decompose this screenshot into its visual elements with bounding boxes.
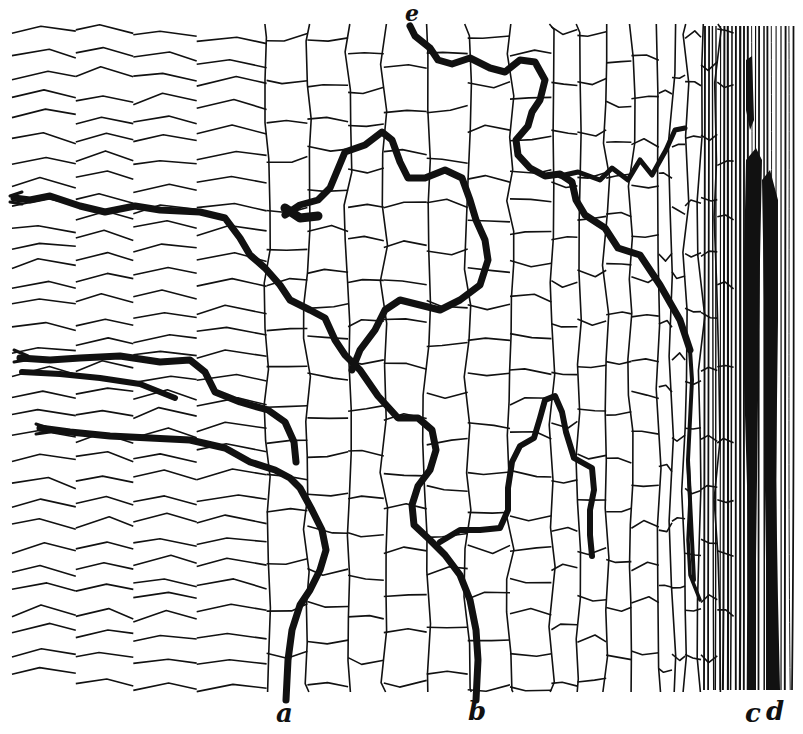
cell-wall [549,24,555,692]
cell-wall [10,24,14,692]
cell-wall [576,24,581,692]
cell-wall [197,177,267,184]
cell-wall [133,313,196,319]
cell-wall [307,304,348,309]
cell-wall [606,101,631,107]
cell-wall [631,315,658,317]
cell-wall [384,504,427,509]
cell-wall [628,24,635,692]
label-e: e [405,2,419,24]
cell-wall [76,96,134,102]
cell-wall [12,158,76,165]
cell-wall [307,493,348,496]
cell-wall [307,418,348,419]
cell-wall [197,495,267,502]
cell-wall [267,440,308,443]
cell-wall [12,49,76,58]
cell-wall [12,259,76,269]
cell-wall [307,336,348,339]
histology-figure [0,0,803,734]
cell-wall [468,373,510,376]
cell-wall [606,458,631,463]
cell-wall [577,78,606,84]
cell-wall [12,178,76,188]
label-d: d [766,698,784,724]
cell-wall [606,264,631,265]
cell-wall [577,678,606,682]
cell-wall [12,243,76,249]
cell-wall [76,609,134,619]
cell-wall [427,158,468,163]
cell-wall [133,579,196,587]
cell-wall [510,260,551,266]
cell-wall [267,249,308,250]
caption-truncated: . . . . . . . . . . . . . . . . . . . . … [0,727,803,734]
cell-wall [427,199,468,207]
cell-wall [348,451,384,457]
cell-wall [133,268,196,276]
cell-wall [76,294,134,303]
cell-wall [510,294,551,302]
cell-wall [76,497,134,505]
cell-wall [672,144,685,147]
cell-wall [468,545,510,554]
vessel-e-branch [560,128,685,180]
cell-wall [685,655,701,660]
cell-wall [631,391,658,398]
cell-wall [672,272,685,279]
cell-wall [384,150,427,155]
cell-wall [384,110,427,112]
cell-wall [133,93,196,104]
cell-wall [133,290,196,299]
cell-wall [631,562,658,570]
cell-wall [423,24,431,692]
cell-wall [76,230,134,240]
fiber-line [723,26,725,690]
cell-wall [12,410,76,416]
cell-wall [606,142,631,143]
cell-wall [307,373,348,380]
cell-wall [197,37,267,43]
cell-wall [685,428,701,429]
cell-wall [468,472,510,475]
cell-wall [427,106,468,113]
cell-wall [12,299,76,304]
cell-wall [76,411,134,416]
cell-wall [577,270,606,277]
cell-wall [348,124,384,126]
cell-wall [76,319,134,326]
cell-wall [307,683,348,687]
cell-wall [133,184,196,192]
cell-wall [384,547,427,553]
cell-wall [348,87,384,93]
cell-wall [307,526,348,533]
cell-wall [348,658,384,665]
cell-wall [76,452,134,462]
fiber-line [789,26,790,690]
cell-wall [577,635,606,642]
cell-wall [631,485,658,486]
cell-wall [197,60,267,68]
cell-wall [348,533,384,537]
cell-wall [606,655,631,660]
fiber-line [792,26,794,690]
cell-wall [133,335,196,343]
cell-wall [631,185,658,188]
cell-wall [384,680,427,687]
cell-wall [348,496,384,499]
cell-wall [307,38,348,41]
cell-wall [551,624,577,630]
cell-wall [307,225,348,231]
cell-wall [551,324,577,327]
cell-wall [133,244,196,252]
cell-wall [133,592,196,598]
cell-wall [267,329,308,331]
cell-wall [656,24,661,692]
cell-wall [197,77,267,87]
cell-wall [197,204,267,211]
cell-wall [468,125,510,132]
cell-wall [384,241,427,248]
cell-wall [468,82,510,88]
cell-wall [307,85,348,87]
cell-wall [197,684,267,691]
